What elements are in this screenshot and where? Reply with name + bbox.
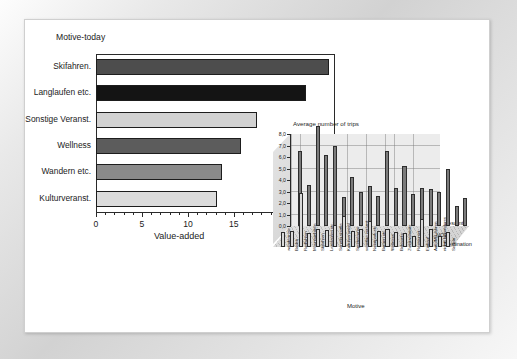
inset-bar — [394, 232, 398, 247]
inset-bar — [359, 229, 363, 247]
main-chart-category-label: Kulturveranst. — [39, 193, 91, 203]
inset-bar — [446, 232, 450, 247]
main-chart-minor-tick — [252, 212, 253, 215]
main-chart-major-tick — [96, 212, 97, 217]
main-chart-major-tick — [234, 212, 235, 217]
main-chart-category-label: Langlaufen etc. — [34, 87, 91, 97]
main-chart-minor-tick — [124, 212, 125, 215]
inset-bar — [299, 193, 303, 247]
main-chart-minor-tick — [225, 212, 226, 215]
inset-y-tick-label: 3,0 — [263, 189, 286, 195]
inset-bar — [359, 192, 363, 227]
main-chart-minor-tick — [243, 212, 244, 215]
inset-y-tick-label: 5,0 — [263, 166, 286, 172]
inset-bar — [385, 229, 389, 247]
inset-bar — [290, 231, 294, 247]
inset-y-tick-label: 6,0 — [263, 154, 286, 160]
inset-bar — [394, 188, 398, 226]
inset-bar — [429, 189, 433, 226]
inset-bar — [438, 236, 442, 248]
inset-bar — [446, 169, 450, 227]
inset-bar — [324, 155, 328, 226]
inset-bar — [437, 192, 441, 227]
main-chart-minor-tick — [114, 212, 115, 215]
inset-y-tick — [287, 169, 291, 170]
inset-y-tick-label: 7,0 — [263, 143, 286, 149]
main-chart-y-axis-title: Motive-today — [56, 32, 105, 42]
main-chart-tick-label: 5 — [140, 219, 145, 229]
inset-y-tick — [287, 134, 291, 135]
inset-bar — [316, 126, 320, 226]
inset-bar — [351, 231, 355, 247]
inset-bar — [412, 236, 416, 248]
inset-y-tick — [287, 180, 291, 181]
inset-bar — [403, 233, 407, 247]
main-chart-tick-label: 0 — [94, 219, 99, 229]
main-chart-tick-label: 15 — [229, 219, 239, 229]
inset-y-tick — [287, 203, 291, 204]
inset-y-tick-label: 8,0 — [263, 131, 286, 137]
inset-y-tick-label: 0,0 — [263, 223, 286, 229]
main-chart-minor-tick — [197, 212, 198, 215]
main-chart-bar — [96, 112, 257, 128]
inset-x-axis-title: Motive — [347, 303, 365, 309]
inset-bar — [325, 230, 329, 247]
inset-chart-title: Average number of trips — [293, 120, 359, 127]
inset-bar — [281, 232, 285, 247]
inset-bar — [316, 229, 320, 247]
main-chart-minor-tick — [216, 212, 217, 215]
inset-bar — [385, 151, 389, 226]
inset-y-tick-label: 4,0 — [263, 177, 286, 183]
main-chart-minor-tick — [206, 212, 207, 215]
inset-y-tick-label: 1,0 — [263, 212, 286, 218]
inset-bar — [429, 229, 433, 247]
main-chart-bar — [96, 59, 329, 75]
inset-3d-bar-chart: Average number of trips 8,07,06,05,04,03… — [263, 120, 485, 320]
main-chart-category-label: Wandern etc. — [42, 166, 92, 176]
inset-y-tick-label: 2,0 — [263, 200, 286, 206]
main-chart-minor-tick — [160, 212, 161, 215]
inset-bar — [307, 185, 311, 226]
main-chart-bar — [96, 191, 217, 207]
inset-bar — [333, 146, 337, 227]
inset-back-wall-grid — [290, 134, 440, 226]
inset-y-tick — [287, 146, 291, 147]
main-chart-category-label: Wellness — [57, 140, 91, 150]
inset-bar — [455, 206, 459, 226]
inset-bar — [402, 166, 406, 226]
inset-y-tick — [287, 192, 291, 193]
main-chart-minor-tick — [133, 212, 134, 215]
main-chart-minor-tick — [151, 212, 152, 215]
inset-bar — [307, 233, 311, 247]
main-chart-bar — [96, 138, 241, 154]
main-chart-tick-label: 10 — [183, 219, 193, 229]
main-chart-minor-tick — [170, 212, 171, 215]
inset-bar — [411, 194, 415, 226]
main-chart-minor-tick — [179, 212, 180, 215]
main-chart-bar-row: Skifahren. — [96, 54, 335, 80]
main-chart-major-tick — [188, 212, 189, 217]
inset-bar — [376, 196, 380, 226]
inset-bar — [377, 231, 381, 247]
inset-y-tick — [287, 157, 291, 158]
main-chart-bar — [96, 164, 222, 180]
main-chart-bar — [96, 85, 306, 101]
inset-bar — [333, 225, 337, 247]
main-chart-minor-tick — [105, 212, 106, 215]
figure-page: Motive-today Skifahren.Langlaufen etc.So… — [30, 24, 485, 328]
inset-bar — [420, 219, 424, 247]
inset-bar — [342, 216, 346, 247]
main-chart-category-label: Sonstige Veranst. — [25, 114, 91, 124]
photo-frame: Motive-today Skifahren.Langlaufen etc.So… — [0, 0, 517, 359]
main-chart-major-tick — [142, 212, 143, 217]
inset-y-tick — [287, 215, 291, 216]
main-chart-x-axis-title: Value-added — [154, 231, 204, 241]
inset-bar — [463, 198, 467, 226]
inset-bar — [368, 221, 372, 247]
inset-bar — [350, 177, 354, 226]
main-chart-bar-row: Langlaufen etc. — [96, 80, 335, 106]
main-chart-category-label: Skifahren. — [53, 61, 91, 71]
